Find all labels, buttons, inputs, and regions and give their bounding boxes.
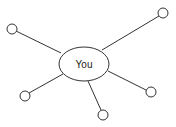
edge-bottom-left [29, 74, 63, 93]
node-right [146, 87, 156, 97]
node-bottom-left [20, 91, 30, 101]
node-bottom [98, 110, 108, 120]
node-top-left [7, 24, 17, 34]
edge-bottom [88, 81, 101, 110]
node-top-right [158, 8, 168, 18]
network-diagram: You [0, 0, 176, 127]
edge-top-right [102, 16, 159, 50]
edge-right [108, 71, 146, 90]
center-label: You [76, 59, 93, 70]
center-node: You [59, 47, 109, 81]
edge-top-left [16, 31, 61, 53]
